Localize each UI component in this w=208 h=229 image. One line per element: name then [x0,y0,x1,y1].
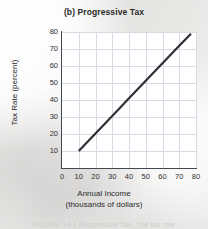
y-axis-tick-label: 40 [32,96,58,104]
y-axis-tick-label: 20 [32,130,58,138]
gridline-vertical [196,32,197,168]
plot-area [62,32,196,168]
gridline-horizontal [62,66,196,67]
gridline-horizontal [62,83,196,84]
gridline-horizontal [62,117,196,118]
x-axis-title-units: (thousands of dollars) [0,199,208,210]
y-axis-tick-label: 50 [32,79,58,87]
gridline-horizontal [62,151,196,152]
y-axis-tick-label: 60 [32,62,58,70]
x-axis-tick-label: 80 [184,173,208,181]
gridline-horizontal [62,32,196,33]
y-axis-tick-label: 10 [32,147,58,155]
y-axis-tick-label: 80 [32,28,58,36]
gridline-horizontal [62,49,196,50]
x-axis-tick-labels: 01020304050607080 [0,173,208,185]
gridline-horizontal [62,100,196,101]
figure-caption: FIGURE 14.1 Progressive Tax. The tax rat… [4,221,204,228]
figure-progressive-tax: (b) Progressive Tax 1020304050607080 010… [0,0,208,229]
x-axis-title-main: Annual Income [0,188,208,199]
y-axis-line [61,31,62,169]
gridline-horizontal [62,134,196,135]
y-axis-tick-label: 30 [32,113,58,121]
y-axis-tick-label: 70 [32,45,58,53]
x-axis-title: Annual Income (thousands of dollars) [0,188,208,210]
y-axis-title: Tax Rate (percent) [10,33,19,153]
x-axis-line [61,168,197,169]
